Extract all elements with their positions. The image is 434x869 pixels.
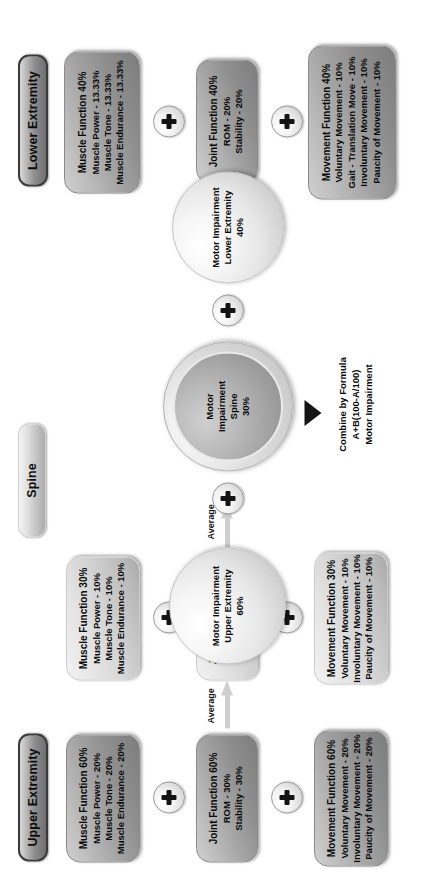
box-line: Stability - 30% [233,766,245,830]
section-title-upper-extremity-label: Upper Extremity [26,748,40,846]
formula-block: Combine by Formula A+B(100-A/100) Motor … [336,331,375,477]
section-title-lower-extremity-label: Lower Extremity [26,71,40,170]
sphere-lower-text: Motor Impairment Lower Extremity 40% [210,187,246,267]
box-line: Muscle Tone - 13.33% [102,73,114,171]
box-line: Muscle Endurance - 13.33% [114,60,126,185]
box-spine-muscle-function: Muscle Function 30% Muscle Power - 10% M… [66,556,140,680]
diagram-canvas: Upper Extremity Spine Lower Extremity Mu… [0,0,434,869]
box-line: Muscle Endurance - 20% [115,742,127,853]
box-line: Movement Function 30% [326,559,338,676]
box-line: Voluntary Movement - 10% [339,558,351,678]
plus-icon-upper-1 [153,781,185,813]
box-lower-extremity-movement-function: Movement Function 40% Voluntary Movement… [308,45,396,199]
sphere-line: 40% [234,187,246,267]
sphere-line: Motor [204,380,216,431]
box-line: Involuntary Movement - 20% [351,734,363,862]
sphere-spine-text: Motor Impairment Spine 30% [204,380,252,431]
box-line: Joint Function 60% [208,752,220,844]
box-upper-extremity-joint-function: Joint Function 60% ROM - 30% Stability -… [196,734,258,862]
box-spine-movement-function: Movement Function 30% Voluntary Movement… [314,552,388,684]
sphere-line: Motor Impairment [210,565,222,645]
box-line: Movement Function 40% [321,63,333,180]
formula-line-2: A+B(100-A/100) [349,331,362,477]
sphere-upper-text: Motor Impairment Upper Extremity 60% [210,565,246,645]
plus-icon-center-upper [212,482,244,514]
section-title-lower-extremity: Lower Extremity [18,54,48,186]
box-line: Paucity of Movement - 10% [363,557,375,679]
box-line: Muscle Tone - 10% [103,576,115,660]
box-upper-extremity-movement-function: Movement Function 60% Voluntary Movement… [314,730,388,866]
average-arrow-upper [221,676,233,728]
plus-icon-upper-2 [271,781,303,813]
average-label-upper: Average [206,688,216,723]
sphere-line: Motor Impairment [210,187,222,267]
average-label-spine: Average [206,504,216,539]
sphere-motor-impairment-lower-extremity: Motor Impairment Lower Extremity 40% [172,171,284,283]
chevron-right-icon [305,400,322,426]
box-line: Movement Function 60% [326,739,338,856]
box-line: ROM - 20% [221,96,233,146]
box-line: Muscle Function 30% [78,567,90,669]
box-line: Stability - 20% [233,89,245,153]
section-title-spine: Spine [18,423,46,537]
box-upper-extremity-muscle-function: Muscle Function 60% Muscle Power - 20% M… [66,734,140,862]
box-lower-extremity-joint-function: Joint Function 40% ROM - 20% Stability -… [196,59,258,183]
box-line: Muscle Power - 13.33% [90,70,102,174]
box-line: Muscle Function 40% [77,71,89,173]
sphere-motor-impairment-upper-extremity: Motor Impairment Upper Extremity 60% [169,547,286,664]
formula-line-3: Motor Impairment [362,331,375,477]
plus-icon-lower-1 [153,105,185,137]
box-line: Muscle Endurance - 10% [115,562,127,673]
box-line: Joint Function 40% [208,75,220,167]
section-title-upper-extremity: Upper Extremity [18,733,48,861]
box-line: Gait - Translation Move - 10% [346,56,358,188]
sphere-motor-impairment-spine: Motor Impairment Spine 30% [163,341,293,471]
box-line: Voluntary Movement - 20% [339,738,351,858]
box-lower-extremity-muscle-function: Muscle Function 40% Muscle Power - 13.33… [64,51,140,193]
plus-icon-lower-2 [271,105,303,137]
formula-line-1: Combine by Formula [336,331,349,477]
plus-icon-center-lower [212,294,244,326]
box-line: Involuntary Movement - 10% [358,58,370,186]
sphere-line: Lower Extremity [222,187,234,267]
box-line: Muscle Tone - 20% [103,756,115,840]
box-line: Paucity of Movement - 10% [371,61,383,183]
box-line: Paucity of Movement - 20% [363,737,375,859]
box-line: Involuntary Movement - 10% [351,554,363,682]
sphere-line: Spine [228,380,240,431]
section-title-spine-label: Spine [25,463,39,498]
sphere-line: Impairment [216,380,228,431]
sphere-line: 60% [234,565,246,645]
box-line: Muscle Function 60% [78,747,90,849]
sphere-line: Upper Extremity [222,565,234,645]
box-line: Muscle Power - 20% [91,753,103,844]
box-line: Muscle Power - 10% [91,573,103,664]
sphere-line: 30% [240,380,252,431]
box-line: ROM - 30% [221,773,233,823]
box-line: Voluntary Movement - 10% [333,62,345,182]
